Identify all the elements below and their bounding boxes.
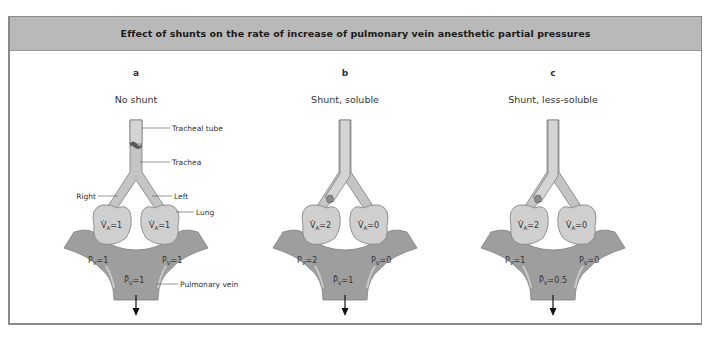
va-left: V̇A=0 [566, 220, 587, 231]
flow-arrow-down-icon [133, 308, 140, 316]
pv-mixed: P̄V=0.5 [539, 275, 567, 286]
va-right: V̇A=2 [518, 220, 539, 231]
pv-mixed: P̄V=1 [333, 275, 353, 286]
lung-label: Lung [196, 208, 215, 217]
panel-c: c Shunt, less-soluble V̇A=2 V̇A=0 PV=1 P… [481, 68, 625, 316]
panel-c-letter: c [550, 68, 555, 78]
va-left-prefix: V̇A=1 [149, 220, 170, 231]
left-label: Left [174, 192, 188, 201]
panel-a-subtitle: No shunt [115, 94, 158, 105]
va-right-prefix: V̇A=1 [101, 220, 122, 231]
right-label: Right [76, 192, 96, 201]
pulmonary-vein-shape [64, 230, 208, 300]
trachea-label: Trachea [171, 158, 201, 167]
pv-left: PV=0 [579, 256, 599, 266]
panel-b: b Shunt, soluble V̇A=2 V̇A=0 PV=2 PV=0 P… [273, 68, 417, 316]
shunt-diagram: a No shunt Tracheal tube Trachea Right L… [0, 0, 721, 337]
panel-a-letter: a [133, 68, 139, 78]
tracheal-tube-shape [130, 120, 142, 144]
pulmonary-vein-shape [273, 230, 417, 300]
pulmonary-vein-shape [481, 230, 625, 300]
pulmonary-vein-label: Pulmonary vein [180, 280, 239, 289]
pv-mixed: P̄V=1 [124, 275, 144, 286]
panel-b-subtitle: Shunt, soluble [311, 94, 379, 105]
pv-right: PV=2 [297, 256, 317, 266]
va-left: V̇A=0 [358, 220, 379, 231]
pv-right: PV=1 [88, 256, 108, 266]
pv-left: PV=1 [162, 256, 182, 266]
tracheal-tube-label: Tracheal tube [171, 124, 223, 133]
tube-cuff-icon [535, 195, 542, 203]
flow-arrow-down-icon [550, 308, 557, 316]
panel-a: a No shunt Tracheal tube Trachea Right L… [64, 68, 239, 316]
panel-b-letter: b [342, 68, 349, 78]
tube-cuff-icon [327, 195, 334, 203]
pv-right: PV=1 [505, 256, 525, 266]
pv-left: PV=0 [371, 256, 391, 266]
va-right: V̇A=2 [310, 220, 331, 231]
panel-c-subtitle: Shunt, less-soluble [508, 94, 598, 105]
flow-arrow-down-icon [342, 308, 349, 316]
